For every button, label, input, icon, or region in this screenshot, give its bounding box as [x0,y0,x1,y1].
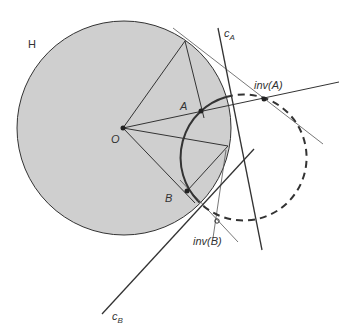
label-b: B [165,192,172,204]
label-c-b-sub: B [118,316,124,325]
point-o [121,126,126,131]
label-h: H [28,38,36,50]
label-o: O [111,133,120,145]
label-a: A [179,100,187,112]
point-a [199,109,204,114]
label-inv-a: inv(A) [254,79,283,91]
point-b [185,189,190,194]
label-inv-b: inv(B) [193,235,222,247]
point-inv-a [262,97,267,102]
inversion-diagram: H O A B inv(A) inv(B) cA cB [0,0,353,335]
label-c-a-sub: A [229,33,235,42]
label-c-a: cA [224,27,235,42]
label-c-b: cB [112,310,124,325]
